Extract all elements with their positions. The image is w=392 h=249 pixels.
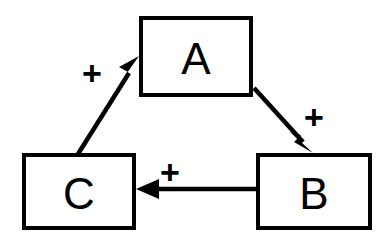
diagram-canvas: + + + A B C (0, 0, 392, 249)
edge-c-to-a[interactable]: + (78, 54, 139, 154)
edge-c-to-a-sign: + (82, 54, 102, 92)
edge-a-to-b-sign: + (304, 98, 324, 136)
node-a-label: A (181, 34, 211, 83)
diagram-svg: + + + A B C (0, 0, 392, 249)
edge-b-to-c[interactable]: + (136, 153, 256, 199)
node-b-label: B (299, 169, 328, 218)
node-b[interactable]: B (258, 155, 370, 228)
node-c[interactable]: C (24, 155, 134, 228)
edge-b-to-c-sign: + (160, 153, 180, 191)
node-c-label: C (63, 169, 95, 218)
edge-b-to-c-arrowhead (136, 179, 159, 199)
node-a[interactable]: A (141, 18, 251, 95)
edge-a-to-b[interactable]: + (254, 88, 324, 153)
